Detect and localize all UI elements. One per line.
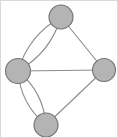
- graph-node-circle-top: [49, 5, 73, 29]
- graph-node-left: [6, 59, 31, 84]
- graph-figure: [0, 0, 118, 138]
- graph-node-right: [93, 59, 116, 82]
- graph-node-circle-left: [6, 59, 31, 84]
- graph-node-top: [49, 5, 73, 29]
- graph-canvas: [1, 1, 118, 138]
- graph-node-bottom: [34, 113, 58, 137]
- graph-node-circle-bottom: [34, 113, 58, 137]
- graph-node-circle-right: [93, 59, 116, 82]
